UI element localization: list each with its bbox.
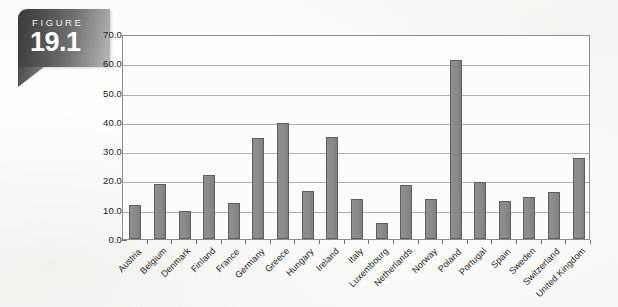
x-axis-tick-mark <box>393 240 394 244</box>
bar <box>400 185 412 239</box>
x-axis-tick-mark <box>344 240 345 244</box>
x-axis-tick-label: Netherlands <box>372 246 414 288</box>
x-axis-tick-label: United Kingdom <box>534 246 587 299</box>
x-axis-tick-label: Denmark <box>159 246 192 279</box>
y-axis-tick-label: 70.0 <box>88 29 122 40</box>
x-axis-tick-label: Poland <box>436 246 463 273</box>
y-axis-tick-label: 20.0 <box>88 175 122 186</box>
bar <box>179 211 191 239</box>
y-axis: 0.010.020.030.040.050.060.070.0 <box>84 35 122 240</box>
bar <box>573 158 585 239</box>
x-axis-tick-mark <box>541 240 542 244</box>
bar <box>376 223 388 239</box>
x-axis-tick-label: Spain <box>489 246 513 270</box>
bar <box>129 205 141 239</box>
x-axis-tick-label: Portugal <box>457 246 488 277</box>
y-axis-tick-label: 60.0 <box>88 58 122 69</box>
x-axis-tick-label: Norway <box>410 246 439 275</box>
x-axis-tick-label: Ireland <box>314 246 341 273</box>
x-axis-tick-label: Italy <box>346 246 365 265</box>
x-axis-tick-label: France <box>214 246 241 273</box>
bar <box>277 123 289 239</box>
y-axis-tick-label: 0.0 <box>88 234 122 245</box>
x-axis-ticks <box>122 240 590 245</box>
bar <box>326 137 338 240</box>
bar <box>548 192 560 239</box>
x-axis-tick-mark <box>590 240 591 244</box>
x-axis-tick-mark <box>221 240 222 244</box>
x-axis-tick-mark <box>368 240 369 244</box>
y-axis-tick-label: 50.0 <box>88 88 122 99</box>
bar <box>450 60 462 239</box>
x-axis-tick-label: Finland <box>189 246 217 274</box>
bar <box>499 201 511 239</box>
bar <box>154 184 166 239</box>
bar <box>203 175 215 239</box>
x-axis-tick-label: Belgium <box>138 246 169 277</box>
bar <box>351 199 363 239</box>
figure-page: FIGURE 19.1 0.010.020.030.040.050.060.07… <box>0 0 618 307</box>
figure-tab-fold-corner <box>18 67 44 87</box>
figure-tab-number: 19.1 <box>30 27 81 58</box>
x-axis-tick-mark <box>196 240 197 244</box>
x-axis-tick-label: Sweden <box>507 246 537 276</box>
x-axis-tick-mark <box>270 240 271 244</box>
x-axis-tick-mark <box>467 240 468 244</box>
bar <box>425 199 437 239</box>
x-axis-tick-mark <box>491 240 492 244</box>
bar <box>228 203 240 239</box>
x-axis-tick-mark <box>565 240 566 244</box>
bar <box>474 182 486 239</box>
x-axis-tick-mark <box>245 240 246 244</box>
x-axis-tick-label: Greece <box>263 246 291 274</box>
x-axis-tick-mark <box>516 240 517 244</box>
bar <box>523 197 535 239</box>
x-axis-tick-label: Switzerland <box>521 246 562 287</box>
x-axis-tick-mark <box>418 240 419 244</box>
x-axis-tick-mark <box>319 240 320 244</box>
x-axis-tick-mark <box>294 240 295 244</box>
bar <box>302 191 314 239</box>
x-axis-tick-mark <box>442 240 443 244</box>
y-axis-tick-label: 40.0 <box>88 117 122 128</box>
x-axis-tick-label: Austria <box>116 246 143 273</box>
x-axis-tick-label: Germany <box>233 246 267 280</box>
x-axis-tick-mark <box>171 240 172 244</box>
x-axis-tick-label: Luxembourg <box>347 246 390 289</box>
x-axis-tick-label: Hungary <box>284 246 316 278</box>
bar-series <box>123 36 589 239</box>
bar <box>252 138 264 239</box>
x-axis-tick-mark <box>147 240 148 244</box>
y-axis-tick-label: 10.0 <box>88 205 122 216</box>
y-axis-tick-label: 30.0 <box>88 146 122 157</box>
plot-area <box>122 35 590 240</box>
